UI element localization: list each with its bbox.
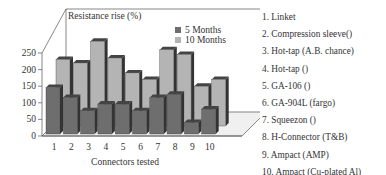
connector-item: 2. Compression sleeve() xyxy=(262,26,361,43)
bar xyxy=(150,97,164,134)
x-tick-label: 4 xyxy=(104,142,109,152)
x-tick-label: 7 xyxy=(155,142,160,152)
bar xyxy=(133,111,147,134)
legend-label: 10 Months xyxy=(185,35,226,45)
x-tick-label: 1 xyxy=(52,142,57,152)
y-tick-label: 200 xyxy=(22,65,37,75)
chart-title: Resistance rise (%) xyxy=(68,11,141,22)
connector-list: 1. Linket 2. Compression sleeve() 3. Hot… xyxy=(262,9,361,175)
connector-item: 1. Linket xyxy=(262,9,361,26)
y-tick-label: 100 xyxy=(22,98,37,108)
x-tick-label: 8 xyxy=(173,142,178,152)
x-tick-label: 6 xyxy=(138,142,143,152)
x-tick-label: 2 xyxy=(69,142,74,152)
bar xyxy=(46,88,60,134)
connector-item: 3. Hot-tap (A.B. chance) xyxy=(262,43,361,60)
connector-item: 4. Hot-tap () xyxy=(262,61,361,78)
y-tick-label: 250 xyxy=(22,48,37,58)
connector-item: 5. GA-106 () xyxy=(262,78,361,95)
connector-item: 9. Ampact (AMP) xyxy=(262,147,361,164)
bar xyxy=(115,104,129,134)
y-tick-label: 50 xyxy=(27,114,37,124)
bar xyxy=(63,97,77,134)
bar xyxy=(184,122,198,134)
y-tick-label: 150 xyxy=(22,81,37,91)
x-tick-label: 9 xyxy=(190,142,195,152)
connector-item: 7. Squeezon () xyxy=(262,112,361,129)
x-axis-label: Connectors tested xyxy=(91,157,159,167)
bar xyxy=(167,94,181,134)
connector-item: 6. GA-904L (fargo) xyxy=(262,95,361,112)
x-tick-label: 5 xyxy=(121,142,126,152)
bar xyxy=(98,104,112,134)
y-tick-label: 0 xyxy=(31,131,36,141)
connector-item: 8. H-Connector (T&B) xyxy=(262,129,361,146)
bar xyxy=(202,109,216,134)
bar-chart: 050100150200250Resistance rise (%)123456… xyxy=(0,0,260,175)
bar xyxy=(81,111,95,134)
connector-item: 10. Ampact (Cu-plated Al) xyxy=(262,164,361,175)
legend-label: 5 Months xyxy=(185,25,221,35)
x-tick-label: 3 xyxy=(86,142,91,152)
x-tick-label: 10 xyxy=(205,142,215,152)
